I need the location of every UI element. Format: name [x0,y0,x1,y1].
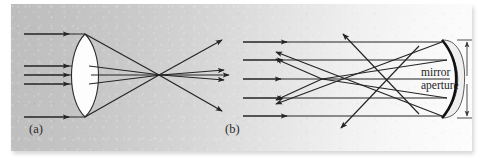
figure-root: (a) [0,0,488,164]
outgoing-ray-a-mid-upper [161,70,224,75]
panel-a-group: (a) [24,34,229,136]
reflected-ray-b-upper-mid-2 [276,59,322,79]
outgoing-ray-a-upper [159,40,222,75]
reflected-ray-b-bottom [276,52,442,116]
scanned-figure-panel: (a) [11,4,472,151]
outgoing-ray-a-mid-lower [161,75,224,80]
panel-a-label: (a) [29,122,43,136]
ray-diagram-svg: (a) [11,4,472,151]
panel-a-refracted-rays [85,34,161,117]
mirror-aperture-caption-line1: mirror [421,66,459,79]
mirror-aperture-caption: mirror aperture [421,66,459,92]
panel-b-label: (b) [225,122,240,136]
outgoing-ray-a-lower [159,75,222,111]
mirror-aperture-caption-line2: aperture [421,79,459,92]
panel-a-outgoing-rays [159,40,229,111]
